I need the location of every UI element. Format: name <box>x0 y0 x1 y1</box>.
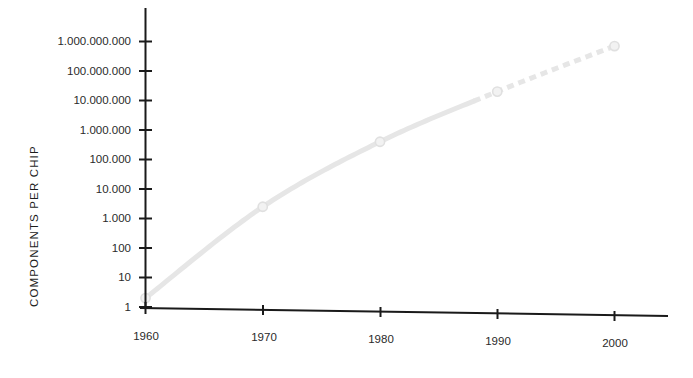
data-point-marker <box>375 137 384 146</box>
y-tick-label: 10 <box>118 272 131 284</box>
y-axis-tick-labels: 1.000.000.000 100.000.000 10.000.000 1.0… <box>0 0 131 378</box>
data-point-marker <box>493 87 502 96</box>
components-per-chip-chart: COMPONENTS PER CHIP 1.000.000.000 100.00… <box>0 0 693 378</box>
y-tick-label: 1.000.000 <box>80 125 131 137</box>
data-line-solid <box>146 101 474 298</box>
x-axis-line <box>140 308 668 316</box>
y-tick-label: 10.000 <box>96 184 131 196</box>
data-point-marker <box>258 202 267 211</box>
x-tick-label: 1990 <box>485 336 511 348</box>
data-point-markers <box>141 41 619 302</box>
y-tick-label: 10.000.000 <box>73 95 131 107</box>
y-tick-label: 100.000.000 <box>67 66 131 78</box>
y-tick-label: 100 <box>112 243 131 255</box>
y-tick-label: 1.000.000.000 <box>57 36 131 48</box>
x-axis-ticks <box>146 302 615 321</box>
x-tick-label: 1970 <box>251 332 277 344</box>
x-tick-label: 2000 <box>602 338 628 350</box>
data-point-marker <box>610 41 619 50</box>
x-tick-label: 1960 <box>133 331 159 343</box>
y-tick-label: 1 <box>125 302 131 314</box>
y-tick-label: 1.000 <box>102 213 131 225</box>
y-tick-label: 100.000 <box>89 154 131 166</box>
x-tick-label: 1980 <box>368 334 394 346</box>
